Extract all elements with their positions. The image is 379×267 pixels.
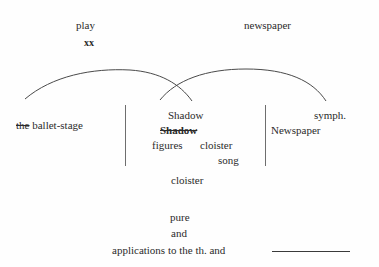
label-shadow-struck: Shadow bbox=[160, 125, 197, 136]
label-cloister-lower: cloister bbox=[171, 175, 203, 186]
label-song: song bbox=[218, 155, 239, 166]
trailing-horizontal-rule bbox=[272, 251, 350, 252]
label-newspaper-top: newspaper bbox=[244, 20, 291, 31]
ballet-stage-word: ballet-stage bbox=[32, 119, 83, 131]
left-vertical-rule bbox=[125, 105, 126, 166]
label-applications: applications to the th. and bbox=[112, 245, 225, 256]
label-cloister-upper: cloister bbox=[200, 140, 232, 151]
label-pure: pure bbox=[170, 212, 190, 223]
label-figures: figures bbox=[152, 140, 183, 151]
diagram-canvas: play xx newspaper the ballet-stage Shado… bbox=[0, 0, 379, 267]
label-play: play bbox=[76, 20, 95, 31]
right-vertical-rule bbox=[265, 105, 266, 166]
struck-word-the: the bbox=[16, 119, 29, 131]
label-and: and bbox=[171, 228, 187, 239]
label-shadow-plain: Shadow bbox=[168, 110, 203, 121]
left-arc bbox=[25, 70, 192, 101]
right-arc bbox=[160, 69, 326, 101]
label-ballet-stage: the ballet-stage bbox=[16, 120, 83, 131]
label-xx: xx bbox=[84, 38, 94, 48]
label-newspaper-column: Newspaper bbox=[271, 125, 320, 136]
label-symph: symph. bbox=[314, 110, 346, 121]
